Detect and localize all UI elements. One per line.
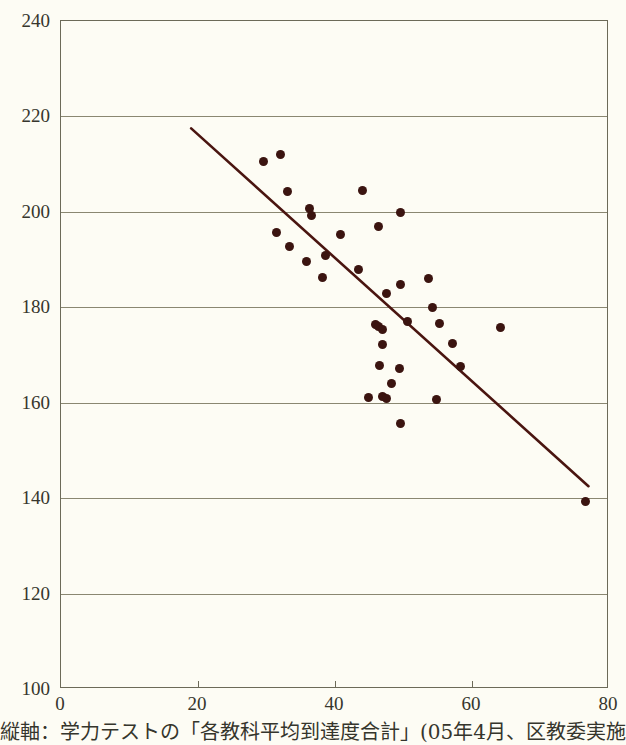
data-point	[374, 222, 383, 231]
data-point	[456, 362, 465, 371]
data-point	[432, 395, 441, 404]
data-point	[581, 497, 590, 506]
y-axis-tick-label: 180	[0, 297, 50, 316]
data-point	[428, 303, 437, 312]
x-axis-tick-label: 60	[462, 694, 481, 713]
data-point	[382, 394, 391, 403]
data-point	[378, 340, 387, 349]
x-axis-tick-label: 20	[188, 694, 207, 713]
trendline	[61, 21, 607, 687]
data-point	[387, 379, 396, 388]
x-axis-tick-label: 80	[599, 694, 618, 713]
y-axis-tick-label: 120	[0, 583, 50, 602]
y-axis-tick-label: 220	[0, 106, 50, 125]
data-point	[354, 265, 363, 274]
data-point	[395, 364, 404, 373]
x-axis-tick-label: 40	[325, 694, 344, 713]
data-point	[375, 361, 384, 370]
y-axis-tick-label: 240	[0, 11, 50, 30]
data-point	[448, 339, 457, 348]
x-axis-tick-label: 0	[55, 694, 65, 713]
data-point	[283, 187, 292, 196]
data-point	[276, 150, 285, 159]
data-point	[307, 211, 316, 220]
figure-caption: 縦軸：学力テストの「各教科平均到達度合計」(05年4月、区教委実施	[0, 719, 626, 745]
data-point	[259, 157, 268, 166]
plot-area	[60, 20, 608, 688]
y-axis-tick-label: 140	[0, 488, 50, 507]
data-point	[285, 242, 294, 251]
y-axis-tick-label: 160	[0, 392, 50, 411]
y-axis-tick-label: 100	[0, 679, 50, 698]
y-axis-tick-label: 200	[0, 201, 50, 220]
